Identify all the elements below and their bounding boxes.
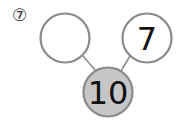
whole-value: 10 <box>88 74 129 112</box>
connector-left <box>83 56 96 71</box>
connector-right <box>121 56 130 71</box>
part-right-value: 7 <box>137 20 157 58</box>
part-circle-left[interactable] <box>41 14 90 63</box>
whole-circle: 10 <box>84 68 133 117</box>
part-circle-right[interactable]: 7 <box>123 14 172 63</box>
number-bond-diagram: 7 10 <box>0 0 183 125</box>
